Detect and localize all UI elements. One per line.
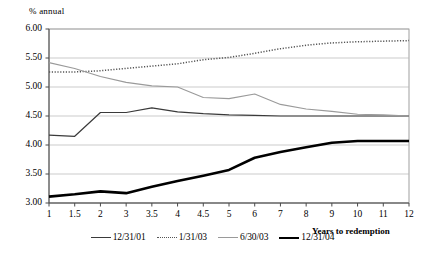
x-axis-tick-label: 4.5 <box>191 209 215 219</box>
x-axis-tick-label: 1.5 <box>63 209 87 219</box>
x-axis-tick-label: 2 <box>88 209 112 219</box>
legend-swatch-icon <box>279 233 299 241</box>
y-axis-tick-label: 3.50 <box>12 168 42 178</box>
legend-label: 12/31/01 <box>113 232 146 242</box>
x-axis-tick-label: 3 <box>114 209 138 219</box>
x-axis-tick-label: 6 <box>243 209 267 219</box>
legend-swatch-icon <box>218 233 238 241</box>
legend-label: 6/30/03 <box>240 232 268 242</box>
chart-container: % annual 6.005.505.004.504.003.503.00 11… <box>0 0 425 260</box>
x-axis-tick-label: 11 <box>371 209 395 219</box>
legend-item[interactable]: 1/31/03 <box>157 232 207 242</box>
y-axis-tick-label: 4.00 <box>12 139 42 149</box>
legend-label: 1/31/03 <box>179 232 207 242</box>
y-axis-tick-label: 4.50 <box>12 110 42 120</box>
x-axis-tick-label: 8 <box>294 209 318 219</box>
x-axis-tick-label: 5 <box>217 209 241 219</box>
legend-item[interactable]: 6/30/03 <box>218 232 268 242</box>
legend-swatch-icon <box>157 233 177 241</box>
x-axis-tick-label: 9 <box>320 209 344 219</box>
plot-area <box>0 0 425 260</box>
x-axis-tick-label: 7 <box>268 209 292 219</box>
y-axis-tick-label: 6.00 <box>12 23 42 33</box>
legend-label: 12/31/04 <box>301 232 334 242</box>
x-axis-tick-label: 1 <box>37 209 61 219</box>
chart-legend: 12/31/011/31/036/30/0312/31/04 <box>0 232 425 242</box>
x-axis-tick-label: 10 <box>346 209 370 219</box>
y-axis-tick-label: 5.50 <box>12 52 42 62</box>
legend-item[interactable]: 12/31/01 <box>91 232 146 242</box>
x-axis-tick-label: 12 <box>397 209 421 219</box>
y-axis-tick-label: 3.00 <box>12 197 42 207</box>
legend-item[interactable]: 12/31/04 <box>279 232 334 242</box>
x-axis-tick-label: 3.5 <box>140 209 164 219</box>
x-axis-tick-label: 4 <box>166 209 190 219</box>
y-axis-tick-label: 5.00 <box>12 81 42 91</box>
legend-swatch-icon <box>91 233 111 241</box>
